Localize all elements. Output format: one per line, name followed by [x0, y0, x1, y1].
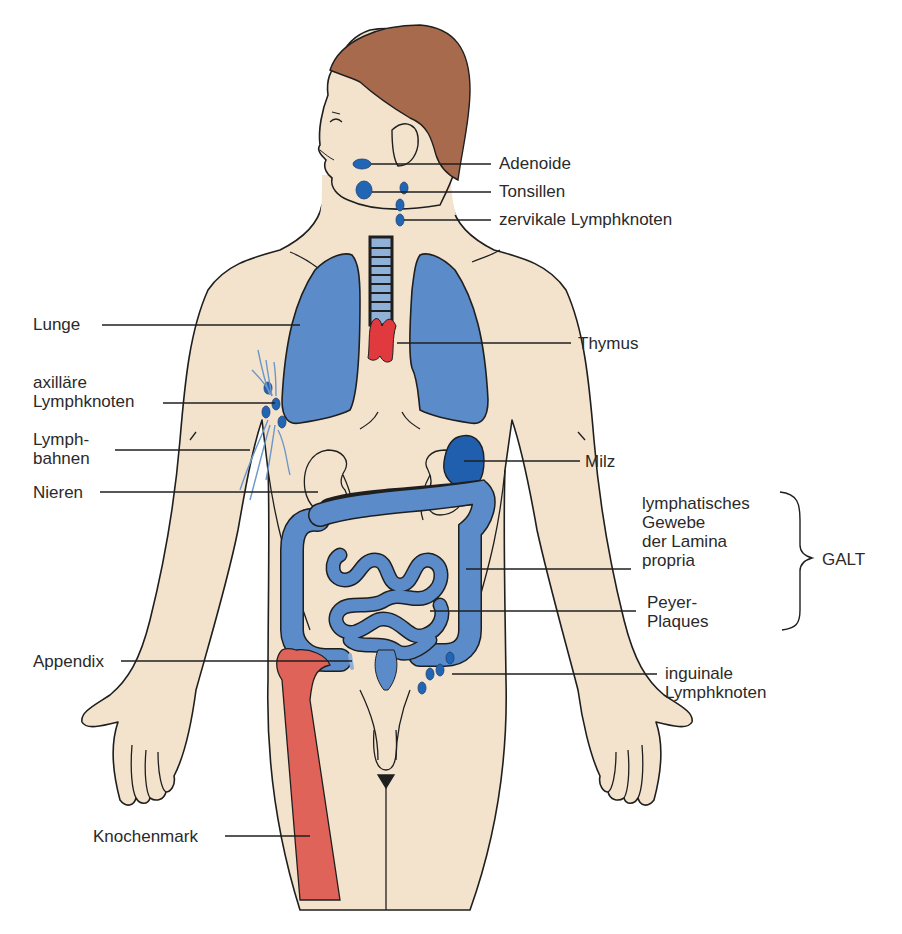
label-zervikale-lymphknoten: zervikale Lymphknoten — [499, 210, 672, 229]
label-lunge: Lunge — [33, 315, 80, 334]
axillary-node-3 — [262, 406, 270, 418]
inguinal-node-3 — [426, 668, 434, 680]
head — [319, 25, 470, 209]
label-tonsillen: Tonsillen — [499, 182, 565, 201]
adenoid-node — [353, 159, 371, 169]
axillary-node-2 — [272, 398, 280, 410]
inguinal-node-2 — [436, 664, 444, 676]
trachea — [370, 237, 392, 325]
spleen — [444, 436, 484, 488]
galt-bracket — [780, 492, 812, 630]
label-knochenmark: Knochenmark — [93, 827, 198, 846]
cervical-node-3 — [396, 214, 404, 226]
inguinal-node-4 — [418, 682, 426, 694]
label-lymphbahnen: Lymph- bahnen — [33, 430, 90, 468]
tonsil-node — [356, 181, 372, 199]
label-axillaere-lymphknoten: axilläre Lymphknoten — [33, 373, 134, 411]
label-appendix: Appendix — [33, 652, 104, 671]
inguinal-node-1 — [446, 652, 454, 664]
label-lamina-propria: lymphatisches Gewebe der Lamina propria — [642, 494, 750, 570]
label-adenoide: Adenoide — [499, 154, 571, 173]
axillary-node-4 — [278, 416, 286, 428]
label-peyer-plaques: Peyer- Plaques — [647, 593, 708, 631]
label-nieren: Nieren — [33, 483, 83, 502]
thymus — [368, 319, 396, 363]
label-inguinale-lymphknoten: inguinale Lymphknoten — [665, 664, 766, 702]
label-galt: GALT — [822, 550, 865, 569]
label-milz: Milz — [585, 452, 615, 471]
cervical-node-2 — [396, 199, 404, 211]
label-thymus: Thymus — [578, 334, 638, 353]
lymphatic-system-diagram: Adenoide Tonsillen zervikale Lymphknoten… — [0, 0, 902, 934]
